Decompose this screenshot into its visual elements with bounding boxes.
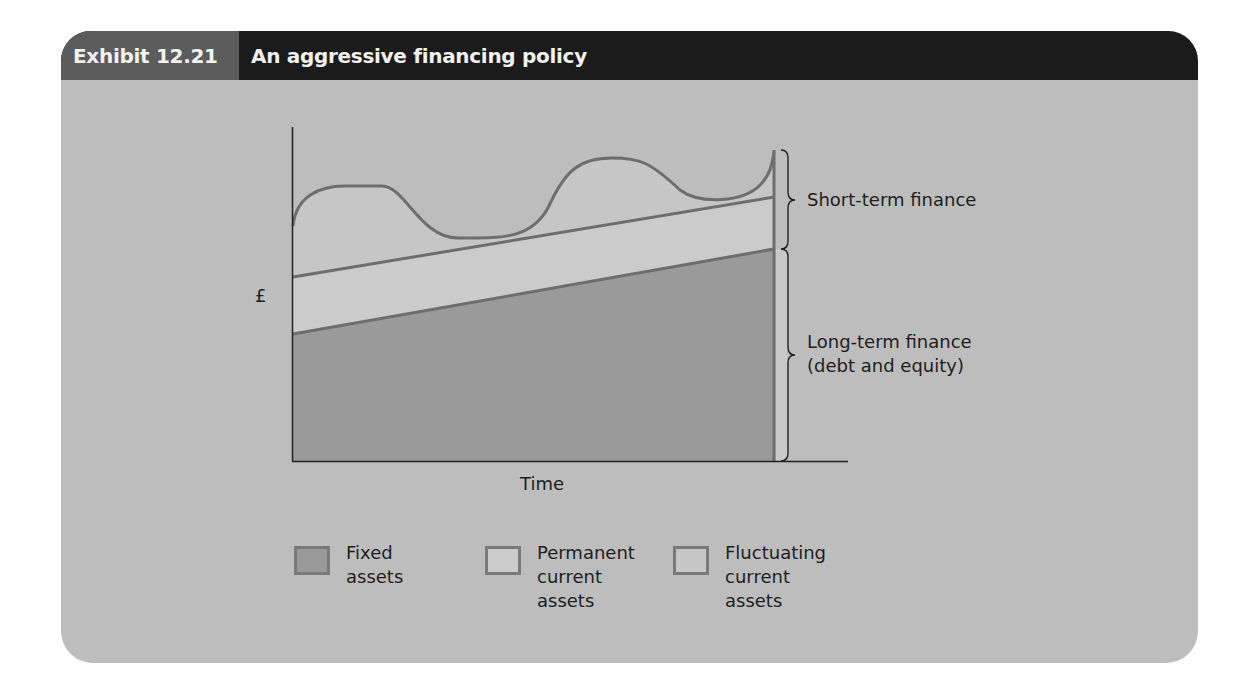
legend-item-fixed-assets: Fixed assets xyxy=(294,541,403,589)
legend-swatch-fluctuating xyxy=(673,546,709,575)
short-term-finance-label: Short-term finance xyxy=(807,188,976,212)
legend-item-permanent-current-assets: Permanent current assets xyxy=(485,541,635,613)
legend-label: Permanent current assets xyxy=(537,541,635,613)
legend-label: Fluctuating current assets xyxy=(725,541,826,613)
long-term-finance-label: Long-term finance xyxy=(807,330,972,354)
legend-item-fluctuating-current-assets: Fluctuating current assets xyxy=(673,541,826,613)
long-term-finance-sublabel: (debt and equity) xyxy=(807,354,964,378)
long-term-strip xyxy=(776,249,787,461)
legend-label: Fixed assets xyxy=(346,541,403,589)
y-axis-label: £ xyxy=(255,284,266,308)
legend-swatch-fixed xyxy=(294,546,330,575)
legend-swatch-permanent xyxy=(485,546,521,575)
x-axis-label: Time xyxy=(520,472,564,496)
short-term-brace xyxy=(781,150,795,249)
